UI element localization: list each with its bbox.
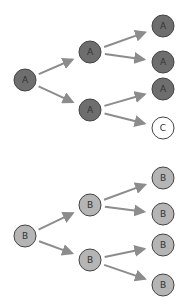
node-c: C	[152, 117, 174, 139]
node-label: A	[160, 84, 167, 94]
node-b: B	[14, 225, 36, 247]
nodes-layer: AAAAAACBBBBBBB	[14, 15, 174, 296]
arrow-icon	[104, 32, 145, 47]
arrow-icon	[105, 249, 145, 257]
node-label: B	[160, 209, 166, 219]
node-label: A	[87, 105, 94, 115]
node-a: A	[152, 51, 174, 73]
node-a: A	[152, 15, 174, 37]
node-a: A	[152, 78, 174, 100]
node-label: A	[87, 47, 94, 57]
node-b: B	[152, 274, 174, 296]
node-b: B	[152, 203, 174, 225]
node-label: C	[160, 123, 166, 133]
node-b: B	[79, 194, 101, 216]
node-label: B	[22, 231, 28, 241]
node-label: A	[22, 75, 29, 85]
arrow-icon	[39, 241, 72, 253]
arrow-icon	[105, 207, 144, 212]
arrow-icon	[104, 185, 145, 200]
node-b: B	[79, 249, 101, 271]
arrow-icon	[104, 265, 145, 279]
node-label: A	[160, 57, 167, 67]
node-b: B	[152, 167, 174, 189]
node-label: B	[160, 173, 166, 183]
node-a: A	[79, 41, 101, 63]
node-label: B	[160, 240, 166, 250]
arrow-icon	[104, 94, 144, 106]
node-label: B	[160, 280, 166, 290]
arrow-icon	[39, 60, 73, 75]
node-label: B	[87, 255, 93, 265]
node-label: A	[160, 21, 167, 31]
node-a: A	[79, 99, 101, 121]
arrow-icon	[105, 54, 144, 59]
node-b: B	[152, 234, 174, 256]
lineage-diagram: AAAAAACBBBBBBB	[0, 0, 189, 307]
arrow-icon	[105, 114, 145, 124]
edges-layer	[39, 32, 146, 278]
node-label: B	[87, 200, 93, 210]
arrow-icon	[39, 86, 73, 102]
node-a: A	[14, 69, 36, 91]
arrow-icon	[39, 213, 73, 229]
